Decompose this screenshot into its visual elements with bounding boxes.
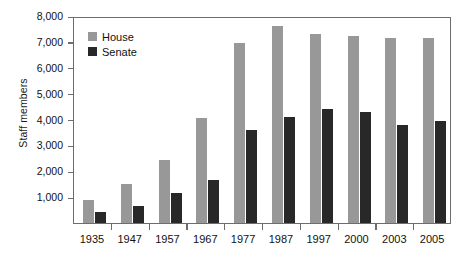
bar-house-2000 <box>348 36 359 223</box>
x-axis-tick-label: 1977 <box>224 233 262 245</box>
bar-house-1987 <box>272 26 283 223</box>
bar-senate-1977 <box>246 130 257 223</box>
x-axis-separator <box>413 224 414 230</box>
bar-house-1967 <box>196 118 207 223</box>
bar-house-1957 <box>159 160 170 223</box>
x-axis-separator <box>375 224 376 230</box>
y-axis-tick-label: 2,000 <box>37 165 63 177</box>
y-axis-tick-label: 4,000 <box>37 114 63 126</box>
x-axis-separator <box>338 224 339 230</box>
y-axis-title: Staff members <box>17 43 29 183</box>
bar-house-2003 <box>385 38 396 223</box>
bar-senate-1987 <box>284 117 295 223</box>
x-axis-tick-label: 1987 <box>262 233 300 245</box>
bar-house-1977 <box>234 43 245 223</box>
legend-item-label: Senate <box>102 46 137 58</box>
bar-house-1935 <box>83 200 94 223</box>
legend-item-label: House <box>102 31 134 43</box>
bar-house-1947 <box>121 184 132 223</box>
bar-senate-1947 <box>133 206 144 223</box>
x-axis-tick-label: 2000 <box>338 233 376 245</box>
legend-swatch-icon <box>88 32 97 41</box>
bar-house-2005 <box>423 38 434 223</box>
y-axis-tick-label: 3,000 <box>37 139 63 151</box>
chart-legend: HouseSenate <box>88 29 137 59</box>
x-axis-tick-label: 1935 <box>73 233 111 245</box>
y-axis-tick-label: 5,000 <box>37 88 63 100</box>
y-axis-tick-label: 6,000 <box>37 62 63 74</box>
legend-swatch-icon <box>88 47 97 56</box>
bar-senate-1997 <box>322 109 333 223</box>
bar-senate-1967 <box>208 180 219 223</box>
bar-senate-1957 <box>171 193 182 223</box>
bar-senate-1935 <box>95 212 106 223</box>
x-axis-separator <box>186 224 187 230</box>
y-axis-tick-label: 7,000 <box>37 36 63 48</box>
x-axis-tick-label: 1967 <box>186 233 224 245</box>
legend-item-senate: Senate <box>88 44 137 59</box>
bar-senate-2005 <box>435 121 446 223</box>
x-axis-tick-label: 1957 <box>149 233 187 245</box>
x-axis-separator <box>224 224 225 230</box>
x-axis-separator <box>111 224 112 230</box>
bar-chart: Staff members 1,0002,0003,0004,0005,0006… <box>0 0 462 262</box>
x-axis-separator <box>300 224 301 230</box>
x-axis-tick-label: 1947 <box>111 233 149 245</box>
bar-house-1997 <box>310 34 321 223</box>
bar-senate-2000 <box>360 112 371 223</box>
y-axis-tick-label: 1,000 <box>37 191 63 203</box>
x-axis-tick-label: 1997 <box>300 233 338 245</box>
x-axis-tick-label: 2005 <box>413 233 451 245</box>
x-axis-separator <box>149 224 150 230</box>
bar-senate-2003 <box>397 125 408 223</box>
legend-item-house: House <box>88 29 137 44</box>
y-axis-tick-label: 8,000 <box>37 10 63 22</box>
x-axis-tick-label: 2003 <box>375 233 413 245</box>
x-axis-separator <box>262 224 263 230</box>
